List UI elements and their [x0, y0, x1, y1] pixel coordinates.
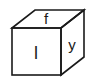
front-face-label: l — [34, 43, 38, 63]
cube-diagram: f l y — [0, 0, 89, 80]
right-face-label: y — [68, 36, 76, 53]
top-face-label: f — [44, 10, 49, 27]
